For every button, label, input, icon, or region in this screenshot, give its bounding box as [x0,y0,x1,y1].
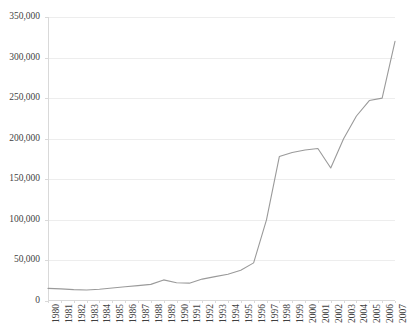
x-tick-mark [305,301,306,303]
y-tick-label: 300,000 [9,53,40,63]
x-tick-label: 1980 [52,304,62,323]
x-tick-label: 1993 [219,304,229,323]
y-tick-label: 150,000 [9,175,40,185]
x-tick-mark [356,301,357,303]
x-tick-label: 2006 [386,304,396,323]
x-tick-label: 2002 [335,304,345,323]
x-tick-label: 1987 [142,304,152,323]
x-tick-label: 1996 [258,304,268,323]
x-tick-label: 1997 [271,304,281,323]
x-tick-label: 2000 [309,304,319,323]
x-tick-mark [279,301,280,303]
x-tick-mark [202,301,203,303]
y-axis: 050,000100,000150,000200,000250,000300,0… [0,0,44,318]
x-tick-mark [99,301,100,303]
x-tick-mark [254,301,255,303]
x-tick-mark [241,301,242,303]
x-tick-label: 1991 [193,304,203,323]
x-tick-label: 1986 [129,304,139,323]
x-tick-mark [87,301,88,303]
y-tick-label: 50,000 [14,256,40,266]
x-tick-label: 1982 [78,304,88,323]
x-tick-label: 1992 [206,304,216,323]
x-tick-mark [138,301,139,303]
x-tick-mark [228,301,229,303]
x-tick-label: 2004 [360,304,370,323]
x-tick-label: 2003 [348,304,358,323]
x-tick-label: 1990 [181,304,191,323]
x-tick-mark [382,301,383,303]
data-series-line [48,17,395,301]
x-tick-label: 2007 [399,304,409,323]
x-tick-mark [74,301,75,303]
y-tick-label: 0 [35,296,40,306]
y-tick-label: 250,000 [9,93,40,103]
x-tick-mark [369,301,370,303]
x-tick-mark [112,301,113,303]
x-tick-label: 2005 [373,304,383,323]
x-tick-mark [395,301,396,303]
x-tick-label: 1999 [296,304,306,323]
x-tick-mark [189,301,190,303]
x-tick-mark [267,301,268,303]
x-tick-mark [318,301,319,303]
x-tick-mark [292,301,293,303]
x-tick-label: 2001 [322,304,332,323]
x-axis: 1980198119821983198419851986198719881989… [48,302,395,336]
x-tick-mark [164,301,165,303]
y-tick-label: 200,000 [9,134,40,144]
y-tick-label: 350,000 [9,12,40,22]
x-tick-label: 1981 [65,304,75,323]
x-tick-label: 1988 [155,304,165,323]
x-tick-mark [48,301,49,303]
x-tick-label: 1998 [283,304,293,323]
x-tick-mark [61,301,62,303]
y-tick-label: 100,000 [9,215,40,225]
x-tick-mark [215,301,216,303]
x-tick-label: 1994 [232,304,242,323]
x-tick-mark [125,301,126,303]
series-line [48,41,395,290]
x-tick-mark [331,301,332,303]
x-tick-label: 1989 [168,304,178,323]
x-tick-label: 1983 [91,304,101,323]
x-tick-mark [344,301,345,303]
x-tick-label: 1995 [245,304,255,323]
x-tick-label: 1985 [116,304,126,323]
x-tick-label: 1984 [103,304,113,323]
x-tick-mark [151,301,152,303]
plot-area [48,17,395,301]
x-tick-mark [177,301,178,303]
